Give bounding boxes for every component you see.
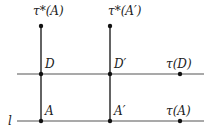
point-tau-star-a-prime [108,24,112,28]
label-line-l: l [8,114,12,128]
label-d-prime: D′ [113,57,127,71]
label-a: A [44,104,54,118]
diagram-canvas: τ*(A) τ*(A′) D D′ τ(D) A A′ τ(A) l [0,0,214,137]
point-tau-d [178,72,182,76]
point-a [39,119,43,123]
point-d [39,72,43,76]
point-tau-star-a [39,24,43,28]
label-tau-d: τ(D) [166,57,192,71]
label-d: D [44,57,55,71]
label-tau-star-a-prime: τ*(A′) [108,4,142,18]
point-a-prime [108,119,112,123]
point-tau-a [178,119,182,123]
label-a-prime: A′ [113,104,126,118]
point-d-prime [108,72,112,76]
label-tau-star-a: τ*(A) [33,4,64,18]
label-tau-a: τ(A) [166,104,191,118]
